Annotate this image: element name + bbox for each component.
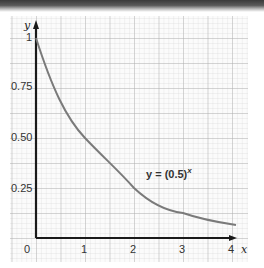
y-tick-0.25: 0.25 (11, 182, 32, 194)
x-tick-3: 3 (179, 243, 185, 255)
x-tick-0: 0 (24, 243, 30, 255)
equation-exponent: x (186, 166, 192, 175)
y-tick-0.75: 0.75 (11, 80, 32, 92)
y-axis-label: y (23, 19, 31, 32)
equation-label: y = (0.5)x (146, 166, 192, 180)
x-tick-2: 2 (130, 243, 136, 255)
x-axis-label: x (241, 243, 248, 256)
y-tick-1: 1 (26, 31, 32, 43)
exponential-chart: 0 1 2 3 4 x 0.25 0.50 0.75 1 y y = (0.5)… (0, 0, 264, 268)
y-tick-0.50: 0.50 (11, 131, 32, 143)
x-tick-1: 1 (81, 243, 87, 255)
grid-paper (10, 16, 248, 262)
equation-base: y = (0.5) (146, 168, 188, 180)
x-tick-4: 4 (228, 243, 234, 255)
